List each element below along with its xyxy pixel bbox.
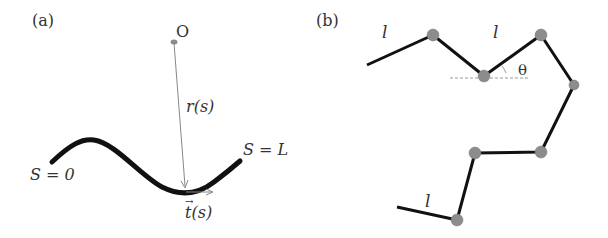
angle-label: θ	[518, 61, 527, 79]
panel-b-label: (b)	[316, 11, 339, 30]
origin-label: O	[176, 22, 189, 41]
segment-length-label: l	[382, 22, 387, 42]
node	[535, 146, 547, 158]
node	[469, 147, 481, 159]
radius-label: r(s)	[186, 97, 214, 116]
freely-jointed-chain	[367, 35, 574, 220]
angle-arc	[502, 66, 506, 73]
end-label: S = L	[243, 140, 288, 159]
figure: (a) O r(s) S = 0 S = L t(s) → (b) l l l …	[0, 0, 608, 238]
vector-arrow-glyph: →	[185, 196, 194, 207]
radius-vector	[174, 43, 185, 186]
node	[451, 214, 463, 226]
node	[478, 70, 490, 82]
panel-a-label: (a)	[32, 11, 54, 30]
node	[427, 29, 439, 41]
panel-b: (b) l l l θ	[316, 11, 579, 226]
node	[569, 80, 579, 90]
segment-length-label: l	[493, 22, 498, 42]
start-label: S = 0	[30, 165, 75, 184]
node	[535, 29, 547, 41]
panel-a: (a) O r(s) S = 0 S = L t(s) →	[30, 11, 288, 222]
segment-length-label: l	[425, 191, 430, 211]
continuous-curve	[52, 140, 240, 193]
